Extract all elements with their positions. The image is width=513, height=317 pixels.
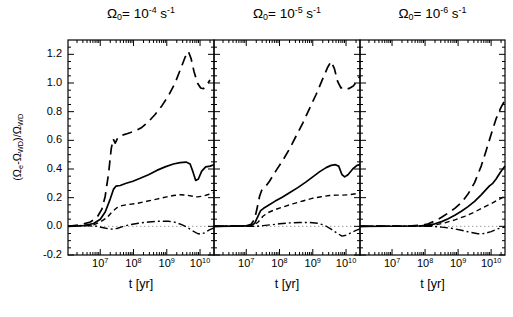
x-axis-label-panel-3: t [yr] [360, 277, 505, 291]
y-tick-label: 0.8 [26, 105, 62, 118]
figure-rotation-evolution-chart: Ω0= 10-4 s-1 Ω0= 10-5 s-1 Ω0= 10-6 s-1 t… [0, 0, 513, 317]
y-tick-label: 0.6 [26, 133, 62, 146]
y-tick-label: 0.4 [26, 162, 62, 175]
x-axis-label-panel-2: t [yr] [214, 277, 360, 291]
y-tick-label: 1.0 [26, 76, 62, 89]
curve-dash-dot [360, 226, 505, 234]
curve-long-dash [68, 52, 210, 227]
panel-title-omega0-1e-6: Ω0= 10-6 s-1 [360, 6, 505, 22]
x-tick-label: 1010 [178, 257, 222, 270]
curve-solid [360, 166, 505, 226]
curve-dash-dot [68, 221, 214, 234]
curve-long-dash [214, 62, 360, 227]
curve-short-dash [214, 193, 360, 227]
panel-title-omega0-1e-5: Ω0= 10-5 s-1 [214, 6, 360, 22]
y-axis-label: (Ωe-ΩWD)/ΩWD [11, 74, 24, 220]
curve-solid [68, 162, 214, 226]
x-tick-label: 1010 [469, 257, 513, 270]
curve-long-dash [360, 100, 505, 226]
curve-dash-dot [214, 223, 360, 237]
y-tick-label: 0.2 [26, 191, 62, 204]
y-tick-label: -0.2 [26, 248, 62, 261]
y-tick-label: 1.2 [26, 47, 62, 60]
x-axis-label-panel-1: t [yr] [68, 277, 214, 291]
y-tick-label: 0.0 [26, 219, 62, 232]
panel-title-omega0-1e-4: Ω0= 10-4 s-1 [68, 6, 214, 22]
panel-frame [214, 40, 360, 255]
x-tick-label: 1010 [324, 257, 368, 270]
